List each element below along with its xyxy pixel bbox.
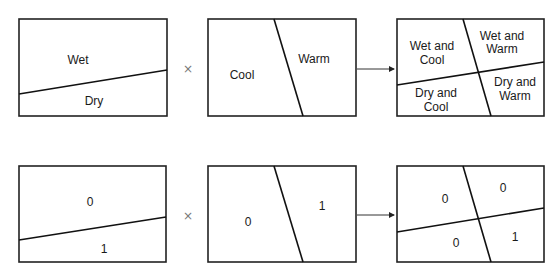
- label-wet-warm-1: Wet and: [480, 29, 524, 43]
- panel-frame: [208, 166, 356, 262]
- label-right-value: 1: [319, 199, 326, 213]
- row-2-binary: 0 1 × 0 1 0 0 0 1: [19, 166, 544, 262]
- panel-frame: [19, 166, 166, 262]
- label-wet-cool-2: Cool: [420, 53, 445, 67]
- boundary-line-horizontal: [397, 208, 544, 232]
- panel-binary-1: 0 1: [19, 166, 166, 262]
- label-bottom-left-value: 0: [453, 236, 460, 250]
- label-wet-warm-2: Warm: [486, 42, 518, 56]
- label-warm: Warm: [298, 52, 330, 66]
- panel-binary-combined: 0 0 0 1: [397, 166, 544, 262]
- panel-cool-warm: Cool Warm: [208, 19, 356, 116]
- boundary-line: [274, 19, 303, 116]
- label-dry-warm-1: Dry and: [494, 75, 536, 89]
- label-dry-cool-1: Dry and: [415, 86, 457, 100]
- label-top-right-value: 0: [500, 181, 507, 195]
- label-top-value: 0: [87, 195, 94, 209]
- label-dry-cool-2: Cool: [424, 100, 449, 114]
- boundary-line: [274, 166, 303, 262]
- panel-binary-2: 0 1: [208, 166, 356, 262]
- multiply-operator-icon: ×: [183, 62, 193, 76]
- boundary-line: [19, 70, 167, 94]
- label-bottom-value: 1: [101, 242, 108, 256]
- boundary-line: [19, 217, 166, 240]
- label-cool: Cool: [230, 68, 255, 82]
- boundary-line-vertical: [463, 166, 491, 262]
- panel-wet-dry: Wet Dry: [19, 19, 167, 116]
- panel-frame: [397, 166, 544, 262]
- label-dry: Dry: [85, 94, 104, 108]
- label-bottom-right-value: 1: [512, 230, 519, 244]
- label-wet-cool-1: Wet and: [410, 39, 454, 53]
- label-wet: Wet: [67, 53, 89, 67]
- label-left-value: 0: [245, 215, 252, 229]
- row-1-wet-dry-cool-warm: Wet Dry × Cool Warm Wet and Cool Wet and…: [19, 19, 544, 116]
- map-overlay-diagram: Wet Dry × Cool Warm Wet and Cool Wet and…: [0, 0, 560, 276]
- multiply-operator-icon: ×: [183, 209, 193, 223]
- label-top-left-value: 0: [442, 192, 449, 206]
- label-dry-warm-2: Warm: [499, 89, 531, 103]
- panel-combined-labels: Wet and Cool Wet and Warm Dry and Cool D…: [397, 19, 544, 116]
